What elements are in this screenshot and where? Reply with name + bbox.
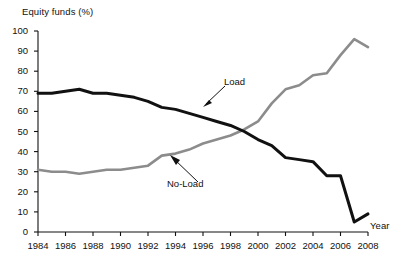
x-axis-tick-label: 2008 xyxy=(351,240,385,251)
y-axis-tick-label: 10 xyxy=(4,206,28,217)
y-axis-tick-label: 20 xyxy=(4,186,28,197)
series-line-no-load xyxy=(38,39,368,174)
chart-canvas xyxy=(0,0,417,261)
x-axis-title: Year xyxy=(370,220,390,231)
chart-annotations xyxy=(170,86,225,182)
y-axis-title: Equity funds (%) xyxy=(22,6,93,17)
y-axis-tick-label: 90 xyxy=(4,45,28,56)
y-axis-tick-label: 100 xyxy=(4,25,28,36)
chart-axes xyxy=(34,31,368,236)
series-label-no-load: No-Load xyxy=(167,178,203,189)
y-axis-ticks xyxy=(34,31,38,232)
y-axis-tick-label: 0 xyxy=(4,226,28,237)
y-axis-tick-label: 70 xyxy=(4,85,28,96)
series-line-load xyxy=(38,89,368,222)
y-axis-tick-label: 60 xyxy=(4,105,28,116)
x-axis-ticks xyxy=(38,232,368,236)
load-annotation-arrowhead xyxy=(203,100,212,107)
series-label-load: Load xyxy=(224,76,245,87)
equity-funds-line-chart: Equity funds (%) Year 010203040506070809… xyxy=(0,0,417,261)
y-axis-tick-label: 30 xyxy=(4,166,28,177)
y-axis-tick-label: 80 xyxy=(4,65,28,76)
y-axis-tick-label: 50 xyxy=(4,126,28,137)
chart-series-group xyxy=(38,39,368,222)
y-axis-tick-label: 40 xyxy=(4,146,28,157)
